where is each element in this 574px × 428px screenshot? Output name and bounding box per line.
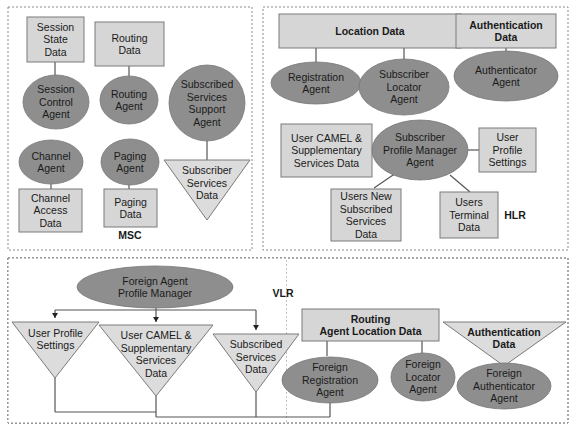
registration-agent: Registration Agent xyxy=(271,62,361,104)
subscribed-services-data-vlr: Subscribed Services Data xyxy=(220,337,292,377)
msc-label: MSC xyxy=(110,228,150,242)
authentication-data: Authentication Data xyxy=(456,14,556,48)
user-profile-settings-vlr: User Profile Settings xyxy=(18,324,93,354)
authentication-data-vlr: Authentication Data xyxy=(455,324,553,352)
users-new-subscribed-services-data: Users New Subscribed Services Data xyxy=(331,189,401,241)
paging-agent: Paging Agent xyxy=(101,139,159,185)
subscriber-profile-manager-agent: Subscriber Profile Manager Agent xyxy=(372,120,468,180)
authenticator-agent: Authenticator Agent xyxy=(454,51,558,101)
foreign-authenticator-agent: Foreign Authenticator Agent xyxy=(458,363,550,409)
subscriber-services-data: Subscriber Services Data xyxy=(172,163,242,203)
location-data: Location Data xyxy=(279,14,461,48)
users-terminal-data: Users Terminal Data xyxy=(440,192,498,238)
channel-access-data: Channel Access Data xyxy=(19,189,82,232)
routing-agent: Routing Agent xyxy=(100,76,158,124)
foreign-agent-profile-manager: Foreign Agent Profile Manager xyxy=(77,266,233,308)
user-camel-data: User CAMEL & Supplementary Services Data xyxy=(281,124,372,177)
paging-data: Paging Data xyxy=(104,189,157,227)
vlr-label: VLR xyxy=(268,286,298,300)
session-control-agent: Session Control Agent xyxy=(23,75,89,129)
user-profile-settings: User Profile Settings xyxy=(479,128,536,172)
session-state-data: Session State Data xyxy=(27,17,84,62)
hlr-label: HLR xyxy=(500,208,530,222)
foreign-locator-agent: Foreign Locator Agent xyxy=(392,353,454,401)
routing-agent-location-data: Routing Agent Location Data xyxy=(302,309,439,341)
subscriber-locator-agent: Subscriber Locator Agent xyxy=(359,59,449,115)
foreign-registration-agent: Foreign Registration Agent xyxy=(284,357,376,403)
channel-agent: Channel Agent xyxy=(19,140,83,184)
user-camel-data-vlr: User CAMEL & Supplementary Services Data xyxy=(106,328,206,380)
routing-data: Routing Data xyxy=(95,22,164,66)
subscribed-services-support-agent: Subscribed Services Support Agent xyxy=(169,65,245,141)
